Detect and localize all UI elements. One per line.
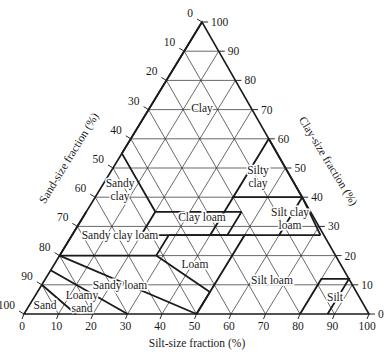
sand-tick	[161, 77, 166, 80]
region-label-sandy-loam: Sandy loam	[93, 279, 148, 292]
silt-axis-title: Silt-size fraction (%)	[149, 337, 246, 350]
silt-tick-label: 70	[258, 320, 270, 332]
sand-tick	[37, 282, 42, 285]
silt-tick-label: 10	[51, 320, 63, 332]
sand-tick-label: 20	[146, 65, 158, 77]
sand-tick	[126, 136, 131, 139]
silt-tick-label: 60	[223, 320, 235, 332]
sand-tick	[179, 48, 184, 51]
clay-tick-label: 60	[278, 133, 290, 145]
sand-tick	[90, 194, 95, 197]
clay-tick-label: 100	[211, 16, 229, 28]
sand-tick	[108, 165, 113, 168]
region-label-loamy-sand: Loamy	[66, 289, 99, 302]
clay-tick-label: 80	[244, 74, 256, 86]
region-label-silt: Silt	[327, 291, 344, 303]
sand-tick-label: 60	[75, 182, 87, 194]
region-label-silt-clay-loam: loam	[279, 219, 302, 231]
sand-tick-label: 90	[21, 270, 33, 282]
sand-tick-label: 40	[110, 124, 122, 136]
sand-tick-label: 70	[57, 211, 69, 223]
region-label-sandy-clay-loam: Sandy clay loam	[82, 229, 159, 242]
clay-tick-label: 40	[311, 191, 323, 203]
sand-tick	[144, 107, 149, 110]
clay-tick-label: 20	[345, 250, 357, 262]
region-label-silt-clay-loam: Silt clay	[271, 206, 309, 219]
region-label-sandy-clay: clay	[110, 190, 129, 203]
region-label-sand: Sand	[34, 299, 57, 311]
sand-tick	[19, 311, 24, 314]
clay-tick-label: 90	[228, 45, 240, 57]
class-boundary	[122, 153, 242, 211]
silt-tick-label: 30	[120, 320, 132, 332]
clay-tick-label: 30	[328, 220, 340, 232]
silt-tick-label: 50	[189, 320, 201, 332]
sand-tick	[197, 19, 202, 22]
sand-tick-label: 50	[93, 153, 105, 165]
region-label-sandy-clay: Sandy	[106, 177, 135, 190]
sand-tick-label: 100	[0, 299, 15, 311]
sand-tick-label: 0	[187, 7, 193, 19]
sand-tick-label: 80	[39, 241, 51, 253]
soil-texture-triangle: 0001010102020203030304040405050506060607…	[0, 0, 392, 356]
region-label-silt-loam: Silt loam	[251, 274, 293, 286]
sand-tick-label: 30	[128, 95, 140, 107]
clay-tick-label: 70	[261, 104, 273, 116]
silt-tick-label: 90	[327, 320, 339, 332]
silt-tick-label: 100	[358, 320, 376, 332]
sand-tick	[72, 223, 77, 226]
region-label-silty-clay: Silty	[247, 164, 269, 177]
region-label-clay-loam: Clay loam	[178, 211, 226, 224]
grid-lines	[42, 51, 353, 314]
clay-tick-label: 10	[361, 279, 373, 291]
region-label-loamy-sand: sand	[71, 302, 92, 314]
clay-tick-label: 50	[295, 162, 307, 174]
sand-tick	[55, 253, 60, 256]
silt-tick-label: 20	[85, 320, 97, 332]
silt-tick-label: 80	[292, 320, 304, 332]
sand-tick-label: 10	[164, 36, 176, 48]
silt-tick-label: 40	[154, 320, 166, 332]
region-label-silty-clay: clay	[248, 177, 267, 190]
silt-tick-label: 0	[19, 320, 25, 332]
clay-tick-label: 0	[378, 308, 384, 320]
region-label-clay: Clay	[191, 102, 213, 115]
region-label-loam: Loam	[182, 258, 209, 270]
